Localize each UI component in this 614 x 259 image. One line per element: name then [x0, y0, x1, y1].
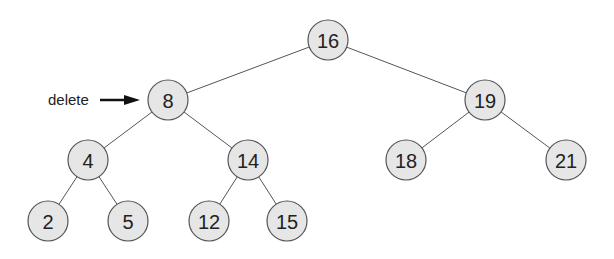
node-label: 18 [395, 150, 417, 172]
arrow-right-icon [124, 95, 140, 105]
node-8: 8 [148, 80, 188, 120]
node-label: 19 [474, 90, 496, 112]
node-label: 15 [276, 211, 298, 233]
node-12: 12 [189, 201, 229, 241]
node-label: 5 [122, 211, 133, 233]
edge-4-5 [99, 177, 117, 205]
nodes-layer: 168194141821251215 [28, 20, 586, 241]
edge-4-2 [59, 177, 77, 205]
bst-diagram: 168194141821251215 delete [0, 0, 614, 259]
node-18: 18 [386, 140, 426, 180]
tree-svg: 168194141821251215 delete [0, 0, 614, 259]
edge-19-18 [422, 112, 469, 148]
node-14: 14 [228, 140, 268, 180]
edge-14-12 [220, 177, 237, 204]
edges-layer [59, 47, 550, 204]
node-label: 4 [82, 150, 93, 172]
delete-label: delete [48, 91, 89, 108]
node-4: 4 [68, 140, 108, 180]
node-19: 19 [465, 80, 505, 120]
node-2: 2 [28, 201, 68, 241]
delete-annotation: delete [48, 91, 140, 108]
node-label: 12 [198, 211, 220, 233]
node-label: 8 [162, 90, 173, 112]
node-label: 2 [42, 211, 53, 233]
node-15: 15 [267, 201, 307, 241]
node-5: 5 [108, 201, 148, 241]
edge-16-8 [187, 47, 310, 93]
node-label: 14 [237, 150, 259, 172]
edge-16-19 [347, 47, 467, 93]
edge-19-21 [501, 112, 550, 148]
node-label: 16 [317, 30, 339, 52]
node-label: 21 [555, 150, 577, 172]
edge-8-4 [104, 112, 152, 148]
node-16: 16 [308, 20, 348, 60]
node-21: 21 [546, 140, 586, 180]
edge-8-14 [184, 112, 232, 148]
edge-14-15 [259, 177, 276, 204]
